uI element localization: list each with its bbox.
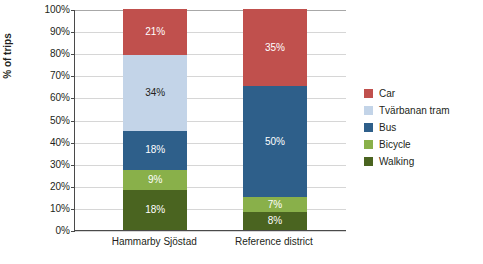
chart-legend: CarTvärbanan tramBusBicycleWalking	[364, 85, 476, 170]
legend-swatch	[364, 123, 373, 132]
y-axis-tick-mark	[71, 98, 75, 99]
bar-segment-label: 34%	[145, 88, 165, 98]
legend-item: Tvärbanan tram	[364, 102, 476, 119]
y-axis-tick-label: 70%	[30, 71, 70, 81]
x-axis-tick-label: Hammarby Sjöstad	[94, 236, 214, 247]
gridline	[75, 231, 346, 232]
legend-label: Bicycle	[379, 139, 411, 150]
legend-item: Walking	[364, 153, 476, 170]
bar-segment: 50%	[243, 86, 307, 197]
y-axis-tick-mark	[71, 165, 75, 166]
legend-item: Bus	[364, 119, 476, 136]
y-axis-tick-label: 80%	[30, 49, 70, 59]
y-axis-tick-label: 20%	[30, 182, 70, 192]
y-axis-tick-label: 100%	[30, 5, 70, 15]
y-axis-tick-label: 0%	[30, 226, 70, 236]
bar-segment: 35%	[243, 9, 307, 86]
y-axis-tick-label: 60%	[30, 93, 70, 103]
bar-segment: 21%	[123, 9, 187, 55]
bar-segment-label: 50%	[265, 137, 285, 147]
bar-segment-label: 21%	[145, 27, 165, 37]
y-axis-tick-mark	[71, 209, 75, 210]
y-axis-tick-mark	[71, 32, 75, 33]
y-axis-tick-mark	[71, 231, 75, 232]
plot-area: 0%10%20%30%40%50%60%70%80%90%100%18%9%18…	[74, 10, 346, 231]
legend-label: Bus	[379, 122, 396, 133]
legend-swatch	[364, 89, 373, 98]
stacked-bar-chart: % of trips 0%10%20%30%40%50%60%70%80%90%…	[0, 0, 483, 264]
y-axis-tick-mark	[71, 187, 75, 188]
bar-segment-label: 9%	[148, 175, 162, 185]
legend-label: Tvärbanan tram	[379, 105, 450, 116]
bar-segment: 9%	[123, 170, 187, 190]
y-axis-tick-mark	[71, 10, 75, 11]
y-axis-tick-label: 90%	[30, 27, 70, 37]
bar-segment-label: 35%	[265, 43, 285, 53]
y-axis-tick-label: 10%	[30, 204, 70, 214]
bar-segment-label: 18%	[145, 205, 165, 215]
legend-item: Car	[364, 85, 476, 102]
y-axis-tick-mark	[71, 121, 75, 122]
legend-label: Car	[379, 88, 395, 99]
bar-segment-label: 18%	[145, 145, 165, 155]
bar-segment: 7%	[243, 197, 307, 212]
y-axis-tick-label: 30%	[30, 160, 70, 170]
bar-segment: 18%	[123, 131, 187, 171]
legend-swatch	[364, 157, 373, 166]
bar-segment-label: 7%	[268, 200, 282, 210]
bar-stack: 18%9%18%34%21%	[123, 9, 187, 230]
y-axis-tick-label: 50%	[30, 116, 70, 126]
y-axis-title: % of trips	[2, 16, 13, 96]
legend-swatch	[364, 106, 373, 115]
bar-segment-label: 8%	[268, 216, 282, 226]
y-axis-tick-mark	[71, 143, 75, 144]
legend-swatch	[364, 140, 373, 149]
bar-segment: 8%	[243, 212, 307, 230]
x-axis-tick-label: Reference district	[214, 236, 334, 247]
legend-item: Bicycle	[364, 136, 476, 153]
bar-stack: 8%7%50%0%35%	[243, 9, 307, 230]
bar-segment: 34%	[123, 55, 187, 130]
y-axis-tick-mark	[71, 76, 75, 77]
y-axis-tick-label: 40%	[30, 138, 70, 148]
bar-segment: 18%	[123, 190, 187, 230]
y-axis-tick-mark	[71, 54, 75, 55]
legend-label: Walking	[379, 156, 414, 167]
